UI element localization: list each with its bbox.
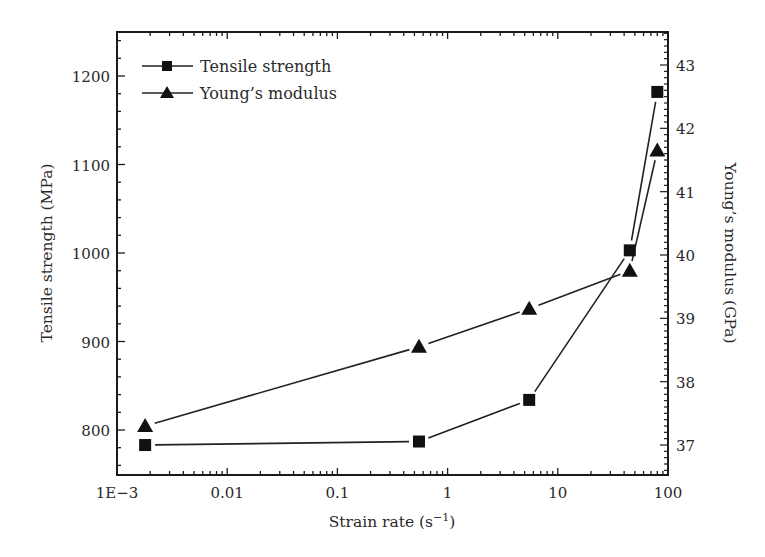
y2-tick-label: 37 <box>676 437 695 455</box>
series-line-segment <box>155 350 410 424</box>
triangle-marker-icon <box>411 339 427 353</box>
square-marker-icon <box>139 439 151 451</box>
y2-tick-label: 43 <box>676 57 695 75</box>
square-marker-icon <box>624 244 636 256</box>
y2-tick-label: 41 <box>676 184 695 202</box>
series-lines <box>155 102 656 445</box>
y-tick-label: 1000 <box>72 245 110 263</box>
legend-item-youngs-modulus: Young’s modulus <box>142 84 337 103</box>
x-tick-label: 0.01 <box>210 484 243 502</box>
y2-tick-label: 42 <box>676 120 695 138</box>
x-tick-label: 1 <box>443 484 453 502</box>
triangle-marker-icon <box>137 418 153 432</box>
y-axis-title: Tensile strength (MPa) <box>38 163 56 342</box>
tick-labels: 1E−30.010.111010080090010001100120037383… <box>72 57 695 502</box>
y-tick-label: 800 <box>81 422 110 440</box>
series-line-segment <box>428 403 519 438</box>
x-axis-title: Strain rate (s−1) <box>329 511 456 531</box>
y-tick-label: 1200 <box>72 68 110 86</box>
x-tick-label: 100 <box>654 484 683 502</box>
legend-label-youngs-modulus: Young’s modulus <box>199 84 337 103</box>
y2-tick-label: 38 <box>676 374 695 392</box>
triangle-marker-icon <box>160 86 174 98</box>
legend-label-tensile-strength: Tensile strength <box>200 57 331 76</box>
y2-axis-title: Young’s modulus (GPa) <box>721 161 739 343</box>
x-tick-label: 0.1 <box>325 484 349 502</box>
legend: Tensile strength Young’s modulus <box>142 57 337 103</box>
series-markers <box>137 86 665 451</box>
square-marker-icon <box>523 394 535 406</box>
y-tick-label: 1100 <box>72 157 110 175</box>
y-tick-label: 900 <box>81 334 110 352</box>
square-marker-icon <box>162 61 172 71</box>
legend-item-tensile-strength: Tensile strength <box>142 57 331 76</box>
x-axis-title-superscript: −1 <box>433 511 449 524</box>
y2-tick-label: 39 <box>676 310 695 328</box>
x-tick-label: 1E−3 <box>96 484 139 502</box>
chart-canvas: 1E−30.010.111010080090010001100120037383… <box>0 0 765 557</box>
square-marker-icon <box>413 436 425 448</box>
square-marker-icon <box>651 86 663 98</box>
x-tick-label: 10 <box>548 484 567 502</box>
triangle-marker-icon <box>521 301 537 315</box>
series-line-segment <box>428 312 519 343</box>
series-line-segment <box>155 442 409 445</box>
triangle-marker-icon <box>649 143 665 157</box>
y2-tick-label: 40 <box>676 247 695 265</box>
series-line-segment <box>539 274 621 305</box>
triangle-marker-icon <box>622 263 638 277</box>
